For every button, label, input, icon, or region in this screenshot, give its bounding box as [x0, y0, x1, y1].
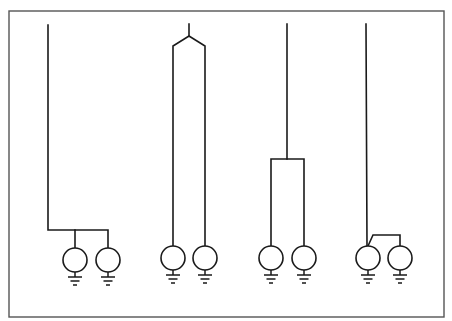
diagram-canvas [0, 0, 452, 321]
source-symbol-icon [292, 246, 316, 283]
group-1-feeder-line [48, 25, 108, 248]
source-symbol-icon [388, 246, 412, 283]
source-symbol-icon [356, 246, 380, 283]
group-4-stem-line [366, 24, 367, 246]
source-symbol-icon [259, 246, 283, 283]
group-2 [161, 24, 217, 283]
source-symbol-icon [193, 246, 217, 283]
source-symbol-icon [161, 246, 185, 283]
group-3-split-lines [271, 159, 304, 246]
source-symbol-icon [96, 248, 120, 285]
group-3 [259, 24, 316, 283]
diagram-svg [0, 0, 452, 321]
group-1 [48, 25, 120, 285]
group-2-fork-lines [173, 36, 205, 246]
group-4 [356, 24, 412, 283]
source-symbol-icon [63, 248, 87, 285]
group-4-jumper-line [368, 235, 400, 246]
